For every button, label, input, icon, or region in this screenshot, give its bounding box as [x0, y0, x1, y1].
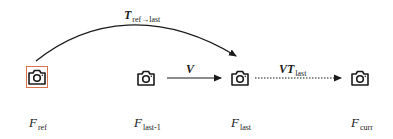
node-subscript: last-1	[143, 123, 161, 132]
diagram-canvas: Tref→last V VTlast Fref Flast-1 Flast Fc…	[0, 0, 393, 139]
edges-layer	[0, 0, 393, 139]
edge-ref-to-last	[36, 25, 236, 61]
node-label-last: Flast	[231, 115, 251, 132]
edge-label-t-ref-last: Tref→last	[124, 8, 160, 24]
node-subscript: ref	[38, 123, 47, 132]
node-subscript: curr	[360, 123, 373, 132]
edge-label-main: T	[124, 8, 131, 22]
node-symbol: F	[231, 115, 239, 130]
node-label-last-1: Flast-1	[134, 115, 161, 132]
node-label-ref: Fref	[29, 115, 47, 132]
node-symbol: F	[134, 115, 142, 130]
edge-label-main: V	[186, 62, 194, 76]
node-subscript: last	[240, 123, 251, 132]
edge-label-sub: ref→last	[132, 15, 160, 24]
node-label-curr: Fcurr	[351, 115, 373, 132]
edge-label-sub: last	[295, 69, 306, 78]
camera-icon	[136, 69, 156, 87]
edge-label-v: V	[186, 62, 194, 77]
edge-label-vt-last: VTlast	[279, 62, 306, 78]
camera-icon	[350, 69, 370, 87]
camera-icon	[230, 69, 250, 87]
camera-icon	[27, 68, 47, 86]
node-symbol: F	[29, 115, 37, 130]
node-symbol: F	[351, 115, 359, 130]
edge-label-main: VT	[279, 62, 294, 76]
